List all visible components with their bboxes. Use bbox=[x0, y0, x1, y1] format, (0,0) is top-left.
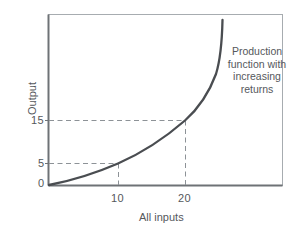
x-tick-label-20: 20 bbox=[178, 192, 191, 204]
x-tick-label-10: 10 bbox=[111, 192, 124, 204]
figure-container: 15 5 0 10 20 Output All inputs Productio… bbox=[0, 0, 300, 231]
x-axis-title: All inputs bbox=[139, 211, 184, 223]
y-tick-label-5: 5 bbox=[38, 157, 44, 169]
y-tick-label-15: 15 bbox=[31, 114, 44, 126]
plot-frame bbox=[49, 15, 283, 186]
y-tick-label-0: 0 bbox=[38, 177, 44, 189]
curve-annotation: Production function with increasing retu… bbox=[222, 45, 292, 95]
chart-canvas bbox=[0, 0, 300, 231]
y-axis-title: Output bbox=[26, 82, 38, 115]
